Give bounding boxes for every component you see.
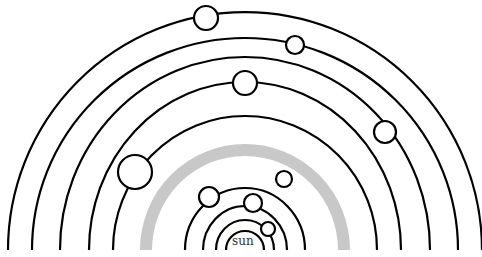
planet-3	[199, 187, 219, 207]
planet-6	[374, 121, 396, 143]
solar-system-diagram: sun	[0, 0, 482, 257]
sun-label: sun	[232, 235, 254, 247]
orbit-diagram	[0, 0, 482, 257]
planet-9	[194, 6, 218, 30]
planet-1	[261, 222, 275, 236]
planet-4	[276, 171, 292, 187]
planet-5	[118, 155, 152, 189]
planet-7	[233, 71, 257, 95]
orbit-9	[8, 12, 482, 250]
planet-2	[244, 194, 262, 212]
planet-8	[286, 36, 304, 54]
